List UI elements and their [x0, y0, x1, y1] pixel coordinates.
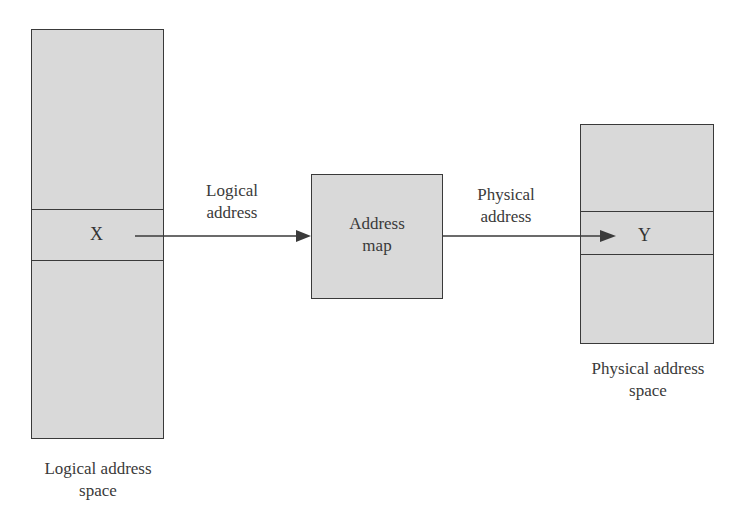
map-to-physical-arrow [443, 230, 616, 242]
logical-to-map-arrow [135, 230, 311, 242]
arrowhead-icon [600, 230, 616, 242]
arrows-layer [0, 0, 743, 530]
arrowhead-icon [296, 230, 311, 242]
